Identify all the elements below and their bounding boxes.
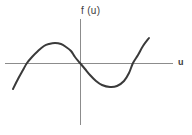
plot-canvas (0, 0, 192, 135)
function-plot-figure: f (u) u (0, 0, 192, 135)
axes-group (5, 19, 173, 125)
x-axis-label: u (178, 58, 184, 67)
y-axis-label: f (u) (81, 6, 100, 16)
